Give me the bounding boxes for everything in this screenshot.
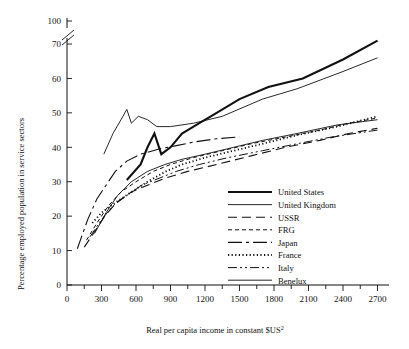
series-line-japan (77, 137, 239, 249)
line-chart: 0102030405060701000300600900120015001800… (0, 0, 409, 349)
chart-figure: 0102030405060701000300600900120015001800… (0, 0, 409, 349)
x-axis-title: Real per capita income in constant $US2 (146, 324, 284, 335)
legend-label-italy: Italy (278, 263, 294, 273)
y-tick-label: 0 (57, 280, 62, 290)
series-line-united-kingdom (104, 58, 378, 154)
x-tick-label: 2100 (300, 294, 319, 304)
legend-layer: United StatesUnited KingdomUSSRFRGJapanF… (228, 187, 336, 285)
x-tick-label: 0 (65, 294, 70, 304)
legend-label-united-kingdom: United Kingdom (278, 200, 336, 210)
x-tick-label: 1200 (196, 294, 215, 304)
x-tick-label: 2400 (334, 294, 353, 304)
x-tick-label: 1800 (265, 294, 284, 304)
legend-label-united-states: United States (278, 187, 325, 197)
y-tick-label: 30 (52, 177, 62, 187)
axis-break-marker (62, 30, 74, 45)
legend-label-benelux: Benelux (278, 276, 307, 286)
y-tick-label: 70 (52, 39, 62, 49)
x-axis-title-superscript: 2 (281, 324, 284, 331)
x-tick-label: 900 (164, 294, 178, 304)
y-tick-label: 60 (52, 74, 62, 84)
x-tick-label: 600 (129, 294, 143, 304)
x-axis-title-main: Real per capita income in constant $US (146, 325, 281, 335)
y-tick-label: 50 (52, 108, 62, 118)
series-line-ussr (84, 128, 377, 247)
y-tick-label: 100 (48, 16, 62, 26)
y-axis-title: Percentage employed population in servic… (16, 118, 26, 290)
x-tick-label: 1500 (231, 294, 250, 304)
x-tick-label: 300 (95, 294, 109, 304)
series-line-united-states (127, 41, 378, 180)
series-layer (77, 41, 377, 249)
y-tick-label: 20 (52, 211, 62, 221)
legend-label-frg: FRG (278, 225, 295, 235)
legend-label-japan: Japan (278, 238, 298, 248)
y-tick-label: 10 (52, 246, 62, 256)
x-tick-label: 2700 (369, 294, 388, 304)
series-line-italy (90, 130, 378, 237)
legend-label-ussr: USSR (278, 213, 300, 223)
legend-label-france: France (278, 250, 302, 260)
y-tick-label: 40 (52, 143, 62, 153)
